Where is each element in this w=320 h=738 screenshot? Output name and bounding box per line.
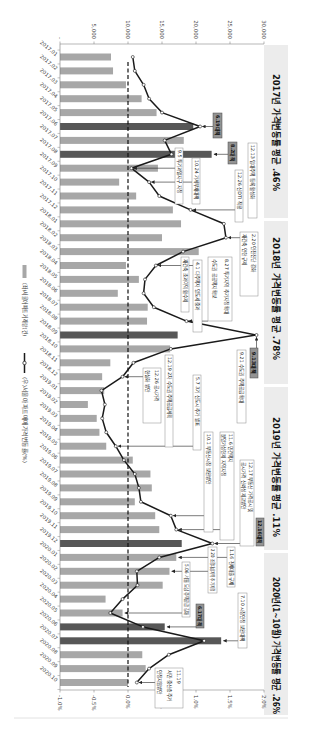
volume-bar bbox=[60, 512, 155, 519]
price-change-point bbox=[222, 222, 225, 225]
volume-bar bbox=[60, 220, 181, 227]
price-change-point bbox=[189, 208, 192, 211]
annotation-text: 현실화 방안 bbox=[144, 370, 151, 393]
volume-bar-highlighted bbox=[60, 623, 165, 630]
volume-bar bbox=[60, 582, 163, 589]
volume-bar-highlighted bbox=[60, 151, 212, 158]
policy-label-dark: 6.17대책 bbox=[196, 604, 204, 628]
volume-bar bbox=[60, 568, 169, 575]
price-change-point bbox=[255, 334, 258, 337]
annotation-text: 1.16 전세대출 규제 bbox=[228, 549, 235, 585]
policy-label-dark: 6.19대책 bbox=[213, 113, 222, 138]
annotation-text: 공시가격 신뢰성 제고방안 bbox=[240, 462, 247, 510]
volume-bar bbox=[60, 443, 106, 450]
price-change-point bbox=[133, 473, 136, 476]
price-change-point bbox=[169, 347, 172, 350]
policy-annotation-box: 12.19 2차 수도권 주택공급계획 bbox=[165, 355, 173, 447]
annotation-text: 2.20 안전진단 강화 bbox=[250, 234, 257, 273]
policy-annotation-box: 12.26 신DTI 적용 bbox=[235, 170, 243, 222]
annotation-text: 11.6 민간택지 bbox=[227, 434, 234, 462]
right-axis-tick-label: -1.0% bbox=[57, 695, 63, 711]
price-change-point bbox=[132, 361, 135, 364]
price-change-point bbox=[141, 625, 144, 628]
annotations: 6.19대책8.2대책9.5 투기과열지구 지정10.24 가계부채대책12.1… bbox=[143, 113, 264, 708]
volume-bar bbox=[60, 276, 139, 283]
volume-bar bbox=[60, 109, 157, 116]
volume-bar bbox=[60, 193, 136, 200]
price-change-point bbox=[158, 556, 161, 559]
policy-annotation-box: 5.06 서울 도심 주택공급 강화 bbox=[182, 562, 190, 617]
price-change-point bbox=[135, 681, 138, 684]
price-change-point bbox=[131, 56, 134, 59]
volume-bar bbox=[60, 498, 135, 505]
right-axis-tick-label: 2.0% bbox=[261, 695, 267, 709]
annotation-text: 12.26 공시가격 bbox=[153, 370, 160, 401]
volume-bar bbox=[60, 679, 128, 686]
policy-annotation-box: 1.16 전세대출 규제 bbox=[227, 547, 235, 587]
left-axis-tick-label: 30,000 bbox=[261, 20, 267, 39]
volume-bar bbox=[60, 526, 159, 533]
price-change-point bbox=[154, 264, 157, 267]
volume-bar bbox=[60, 429, 99, 436]
price-change-point bbox=[167, 653, 170, 656]
title-strip: 2017년 가격변동률 평균 .46% 2018년 가격변동률 평균 .78% … bbox=[264, 45, 288, 715]
right-axis-tick-label: 1.0% bbox=[193, 695, 199, 709]
policy-annotation-box: 8.27 투기지역 추가지정 확대수도권 공공택지 확보 bbox=[208, 257, 232, 321]
annotation-text: 8.27 투기지역 추가지정 확대 bbox=[223, 259, 230, 314]
volume-bar bbox=[60, 234, 162, 241]
annotation-text: 10.1 부동산시장 보완방안 bbox=[205, 434, 212, 485]
policy-annotation-box: 9.5 투기과열지구 지정 bbox=[175, 148, 183, 204]
annotation-text: 5.7 3기 신도시 추가 발표 bbox=[194, 377, 201, 427]
annotation-text: 6.19대책 bbox=[214, 115, 221, 136]
right-axis-tick-label: 0.0% bbox=[125, 695, 131, 709]
price-change-point bbox=[103, 403, 106, 406]
volume-bar bbox=[60, 179, 119, 186]
policy-annotation-box: 10.1 부동산시장 보완방안 bbox=[204, 432, 213, 532]
legend-bar-swatch-icon bbox=[23, 265, 27, 278]
price-change-point bbox=[105, 431, 108, 434]
volume-bar-highlighted bbox=[60, 332, 178, 339]
price-change-point bbox=[148, 667, 151, 670]
left-axis-tick-label: 20,000 bbox=[193, 20, 199, 39]
price-change-point bbox=[101, 417, 104, 420]
price-change-point bbox=[152, 306, 155, 309]
volume-bar bbox=[60, 387, 104, 394]
volume-bar bbox=[60, 290, 118, 297]
volume-bar bbox=[60, 318, 147, 325]
annotation-text: 6.17대책 bbox=[196, 606, 203, 626]
left-axis-tick-label: 5,000 bbox=[91, 24, 97, 40]
price-change-point bbox=[100, 389, 103, 392]
volume-bar bbox=[60, 67, 113, 74]
price-change-point bbox=[169, 514, 172, 517]
price-change-point bbox=[144, 278, 147, 281]
legend: (좌)서울아파트거래량(건) (우)서울아파트매매가격변동률(%) bbox=[21, 265, 29, 463]
left-axis-tick-label: 15,000 bbox=[159, 20, 165, 39]
volume-bar bbox=[60, 471, 150, 478]
policy-annotation-box: 7.10 시장안정 보완대책 bbox=[238, 593, 247, 648]
annotation-text: 7.10 시장안정 보완대책 bbox=[239, 595, 246, 641]
price-change-point bbox=[130, 167, 133, 170]
price-change-point bbox=[211, 542, 214, 545]
policy-annotation-box: 9.21 수도권 주택공급 확대 bbox=[237, 350, 246, 423]
price-change-point bbox=[158, 195, 161, 198]
price-change-point bbox=[139, 500, 142, 503]
price-change-point bbox=[148, 181, 151, 184]
policy-annotation-box: 재건축 초과이익 환수제 bbox=[181, 257, 189, 312]
annotation-text: 8.2대책 bbox=[229, 144, 236, 162]
left-axis-tick-label: 10,000 bbox=[125, 20, 131, 39]
volume-bar bbox=[60, 651, 142, 658]
volume-bar bbox=[60, 415, 97, 422]
policy-annotation-box: 4.1 다주택자 양도세 중과 bbox=[193, 260, 202, 332]
volume-bar-highlighted bbox=[60, 123, 193, 130]
price-change-point bbox=[133, 69, 136, 72]
volume-bars bbox=[60, 54, 221, 687]
annotation-text: 9.13대책 bbox=[250, 352, 257, 374]
annotation-text: 재건축 연한 규제 bbox=[241, 234, 248, 265]
policy-annotation-box: 11.19서민·중산층 주거안정지원방안 bbox=[155, 668, 183, 708]
annotation-text: 4.1 다주택자 양도세 중과 bbox=[194, 262, 201, 311]
annotation-text: 12.13 임대주택 등록 활성화 bbox=[249, 145, 256, 200]
volume-bar bbox=[60, 665, 146, 672]
price-change-point bbox=[135, 570, 138, 573]
annotation-text: 11.19 bbox=[176, 670, 181, 684]
price-change-point bbox=[170, 153, 173, 156]
